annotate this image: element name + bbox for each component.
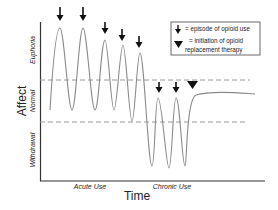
arrow-icon: [173, 82, 180, 93]
legend: = episode of opioid use = initiation of …: [171, 22, 260, 55]
arrow-icon: [57, 7, 64, 21]
arrow-icon: [119, 29, 126, 41]
x-label-chronic: Chronic Use: [153, 183, 192, 190]
legend-arrow-label: = episode of opioid use: [185, 25, 250, 33]
legend-triangle-label-2: replacement therapy: [185, 46, 243, 54]
y-label-normal: Normal: [29, 89, 36, 112]
y-label-euphoria: Euphoria: [29, 36, 37, 64]
x-label-acute: Acute Use: [73, 183, 106, 190]
affect-time-diagram: = episode of opioid use = initiation of …: [0, 0, 278, 210]
y-axis-title: Affect: [15, 85, 29, 116]
x-axis-title: Time: [124, 189, 151, 203]
arrow-icon: [80, 7, 87, 21]
arrow-icon: [136, 36, 143, 48]
arrow-icon: [156, 82, 163, 93]
arrow-icon: [102, 22, 109, 34]
y-label-withdrawal: Withdrawal: [29, 132, 36, 167]
legend-triangle-label-1: = initiation of opioid: [189, 37, 244, 45]
therapy-triangle-icon: [187, 81, 198, 89]
